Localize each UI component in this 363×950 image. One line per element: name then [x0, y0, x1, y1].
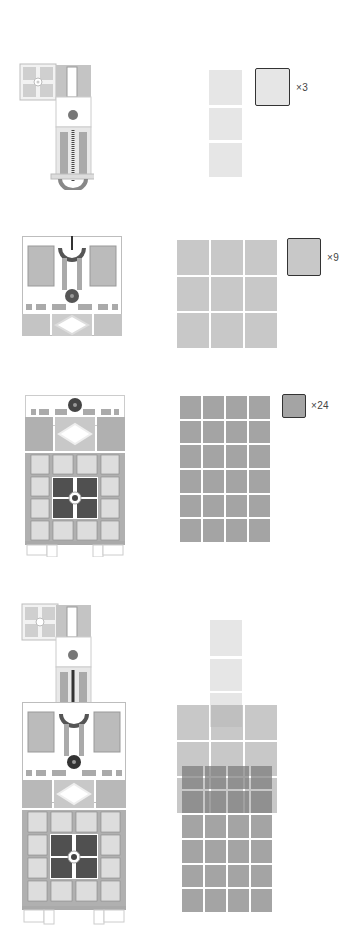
tile [177, 313, 209, 348]
tile-dark [205, 815, 226, 838]
tile [249, 470, 270, 493]
tile [203, 421, 224, 444]
floor-plan-2 [22, 236, 122, 336]
tile-dark [228, 840, 249, 863]
tile [203, 470, 224, 493]
tile [249, 445, 270, 468]
tile [249, 396, 270, 419]
tile [211, 240, 243, 275]
tile [180, 445, 201, 468]
legend-swatch-dark [282, 394, 306, 418]
floor-plan-combined [20, 602, 128, 932]
tile-dark [251, 865, 272, 888]
tile [180, 519, 201, 542]
tile-dark [182, 766, 203, 789]
tile-dark [251, 889, 272, 912]
tile [180, 421, 201, 444]
tile [203, 445, 224, 468]
tile-dark [228, 889, 249, 912]
floor-plan-1 [18, 62, 94, 190]
tile [226, 495, 247, 518]
legend-count-label: ×24 [311, 400, 329, 411]
tile-dark [251, 766, 272, 789]
tile-dark [228, 815, 249, 838]
tile [226, 519, 247, 542]
tile [245, 313, 277, 348]
tile-group-4x6-overlay [182, 766, 272, 912]
tile-dark [182, 791, 203, 814]
tile-dark [182, 840, 203, 863]
floor-plan-3 [25, 395, 125, 557]
tile-dark [182, 815, 203, 838]
tile-dark [205, 840, 226, 863]
tile [226, 421, 247, 444]
tile-group-3x3 [177, 240, 277, 348]
tile [209, 70, 242, 105]
legend-count-label: ×3 [296, 82, 308, 93]
tile-dark [205, 766, 226, 789]
tile-dark [182, 865, 203, 888]
tile [249, 421, 270, 444]
tile [180, 495, 201, 518]
tile [249, 495, 270, 518]
tile-dark [251, 791, 272, 814]
tile [226, 470, 247, 493]
tile [180, 470, 201, 493]
tile-dark [205, 865, 226, 888]
tile [177, 277, 209, 312]
tile-dark [228, 766, 249, 789]
tile-dark [228, 791, 249, 814]
tile [226, 445, 247, 468]
legend-swatch-medium [287, 238, 321, 276]
legend-count-label: ×9 [327, 252, 339, 263]
legend-swatch-light [255, 68, 290, 106]
tile [177, 240, 209, 275]
tile-medium [245, 705, 277, 740]
tile [245, 240, 277, 275]
tile [249, 519, 270, 542]
tile-light [210, 620, 242, 656]
tile-dark [228, 865, 249, 888]
tile [211, 313, 243, 348]
tile-dark [251, 840, 272, 863]
tile-dark [182, 889, 203, 912]
tile-dark [251, 815, 272, 838]
tile [203, 396, 224, 419]
tile-dark [205, 791, 226, 814]
tile [203, 495, 224, 518]
tile-medium [211, 705, 243, 740]
tile-medium [177, 705, 209, 740]
tile-dark [205, 889, 226, 912]
tile [209, 108, 242, 140]
tile-light [210, 659, 242, 691]
tile [180, 396, 201, 419]
tile [245, 277, 277, 312]
tile-group-4x6 [180, 396, 270, 542]
tile [211, 277, 243, 312]
tile [226, 396, 247, 419]
tile [209, 143, 242, 177]
tile [203, 519, 224, 542]
